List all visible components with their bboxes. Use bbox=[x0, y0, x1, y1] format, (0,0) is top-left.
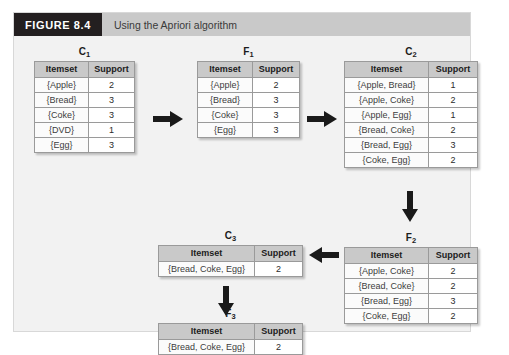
arrow-right-icon bbox=[153, 111, 183, 127]
cell-support: 2 bbox=[429, 279, 478, 294]
table-row: {Apple} 2 bbox=[35, 78, 135, 93]
table-header-row: Itemset Support bbox=[35, 62, 135, 78]
apriori-diagram: C1 Itemset Support {Apple} 2 {Bread} bbox=[14, 36, 470, 331]
node-c1: C1 Itemset Support {Apple} 2 {Bread} bbox=[34, 46, 135, 153]
arrow-f2-to-c3 bbox=[309, 247, 339, 263]
cell-support: 1 bbox=[429, 78, 478, 93]
figure-caption-bar: FIGURE 8.4 Using the Apriori algorithm bbox=[14, 13, 470, 36]
cell-itemset: {Bread, Egg} bbox=[345, 294, 429, 309]
table-f1: Itemset Support {Apple} 2 {Bread} 3 {Cok… bbox=[197, 61, 300, 138]
cell-support: 2 bbox=[255, 262, 303, 277]
table-row: {Apple, Bread} 1 bbox=[345, 78, 478, 93]
table-row: {Bread, Coke} 2 bbox=[345, 123, 478, 138]
cell-support: 3 bbox=[429, 294, 478, 309]
cell-support: 3 bbox=[89, 93, 135, 108]
cell-itemset: {Apple, Coke} bbox=[345, 264, 429, 279]
cell-support: 2 bbox=[429, 123, 478, 138]
cell-support: 2 bbox=[429, 93, 478, 108]
table-header-row: Itemset Support bbox=[198, 62, 300, 78]
table-row: {Bread} 3 bbox=[198, 93, 300, 108]
table-row: {Coke, Egg} 2 bbox=[345, 309, 478, 324]
arrow-right-icon bbox=[307, 111, 337, 127]
figure-title-label: Using the Apriori algorithm bbox=[102, 13, 470, 36]
cell-support: 2 bbox=[429, 264, 478, 279]
table-f3: Itemset Support {Bread, Coke, Egg} 2 bbox=[158, 323, 303, 355]
node-f2-label: F2 bbox=[344, 232, 478, 244]
table-row: {Apple, Coke} 2 bbox=[345, 264, 478, 279]
table-row: {Coke} 3 bbox=[198, 108, 300, 123]
node-f3: F3 Itemset Support {Bread, Coke, Egg} 2 bbox=[158, 308, 303, 355]
figure-panel: FIGURE 8.4 Using the Apriori algorithm C… bbox=[13, 12, 471, 332]
cell-itemset: {Coke, Egg} bbox=[345, 309, 429, 324]
table-row: {Coke} 3 bbox=[35, 108, 135, 123]
cell-support: 1 bbox=[89, 123, 135, 138]
column-header-support: Support bbox=[255, 246, 303, 262]
cell-itemset: {Apple} bbox=[198, 78, 253, 93]
cell-support: 3 bbox=[253, 108, 300, 123]
cell-support: 1 bbox=[429, 108, 478, 123]
column-header-support: Support bbox=[429, 62, 478, 78]
table-row: {DVD} 1 bbox=[35, 123, 135, 138]
table-row: {Bread, Egg} 3 bbox=[345, 294, 478, 309]
node-c3: C3 Itemset Support {Bread, Coke, Egg} 2 bbox=[158, 230, 303, 277]
cell-support: 2 bbox=[429, 153, 478, 168]
column-header-itemset: Itemset bbox=[198, 62, 253, 78]
cell-support: 2 bbox=[429, 309, 478, 324]
cell-support: 2 bbox=[253, 78, 300, 93]
cell-support: 3 bbox=[253, 123, 300, 138]
table-c3: Itemset Support {Bread, Coke, Egg} 2 bbox=[158, 245, 303, 277]
column-header-support: Support bbox=[429, 248, 478, 264]
table-c1: Itemset Support {Apple} 2 {Bread} 3 {Cok… bbox=[34, 61, 135, 153]
node-f1: F1 Itemset Support {Apple} 2 {Bread} bbox=[197, 46, 300, 138]
arrow-c1-to-f1 bbox=[153, 111, 183, 127]
arrow-down-icon bbox=[402, 191, 418, 222]
table-row: {Apple} 2 bbox=[198, 78, 300, 93]
cell-support: 3 bbox=[253, 93, 300, 108]
column-header-support: Support bbox=[89, 62, 135, 78]
node-f2: F2 Itemset Support {Apple, Coke} 2 {Brea… bbox=[344, 232, 478, 324]
column-header-support: Support bbox=[253, 62, 300, 78]
cell-itemset: {DVD} bbox=[35, 123, 89, 138]
column-header-itemset: Itemset bbox=[345, 248, 429, 264]
node-f1-label: F1 bbox=[197, 46, 300, 58]
cell-support: 2 bbox=[255, 340, 303, 355]
table-row: {Bread} 3 bbox=[35, 93, 135, 108]
table-row: {Apple, Egg} 1 bbox=[345, 108, 478, 123]
cell-itemset: {Apple, Bread} bbox=[345, 78, 429, 93]
node-c2: C2 Itemset Support {Apple, Bread} 1 {App… bbox=[344, 46, 478, 168]
cell-itemset: {Egg} bbox=[198, 123, 253, 138]
cell-support: 3 bbox=[89, 108, 135, 123]
column-header-itemset: Itemset bbox=[35, 62, 89, 78]
table-row: {Egg} 3 bbox=[198, 123, 300, 138]
column-header-itemset: Itemset bbox=[159, 324, 255, 340]
arrow-c2-to-f2 bbox=[402, 191, 418, 222]
table-row: {Bread, Coke, Egg} 2 bbox=[159, 262, 303, 277]
cell-support: 3 bbox=[89, 138, 135, 153]
cell-itemset: {Bread, Egg} bbox=[345, 138, 429, 153]
cell-itemset: {Bread, Coke} bbox=[345, 123, 429, 138]
table-f2: Itemset Support {Apple, Coke} 2 {Bread, … bbox=[344, 247, 478, 324]
node-c1-label: C1 bbox=[34, 46, 135, 58]
node-c2-label: C2 bbox=[344, 46, 478, 58]
column-header-support: Support bbox=[255, 324, 303, 340]
cell-itemset: {Coke, Egg} bbox=[345, 153, 429, 168]
column-header-itemset: Itemset bbox=[159, 246, 255, 262]
cell-itemset: {Bread, Coke} bbox=[345, 279, 429, 294]
table-row: {Bread, Coke} 2 bbox=[345, 279, 478, 294]
figure-number-label: FIGURE 8.4 bbox=[14, 13, 102, 36]
cell-itemset: {Apple, Egg} bbox=[345, 108, 429, 123]
column-header-itemset: Itemset bbox=[345, 62, 429, 78]
table-row: {Coke, Egg} 2 bbox=[345, 153, 478, 168]
table-c2: Itemset Support {Apple, Bread} 1 {Apple,… bbox=[344, 61, 478, 168]
table-header-row: Itemset Support bbox=[159, 324, 303, 340]
table-header-row: Itemset Support bbox=[345, 62, 478, 78]
cell-itemset: {Bread, Coke, Egg} bbox=[159, 262, 255, 277]
table-header-row: Itemset Support bbox=[345, 248, 478, 264]
cell-itemset: {Bread} bbox=[35, 93, 89, 108]
node-c3-label: C3 bbox=[158, 230, 303, 242]
table-header-row: Itemset Support bbox=[159, 246, 303, 262]
cell-itemset: {Egg} bbox=[35, 138, 89, 153]
cell-itemset: {Apple} bbox=[35, 78, 89, 93]
cell-itemset: {Bread} bbox=[198, 93, 253, 108]
cell-support: 3 bbox=[429, 138, 478, 153]
